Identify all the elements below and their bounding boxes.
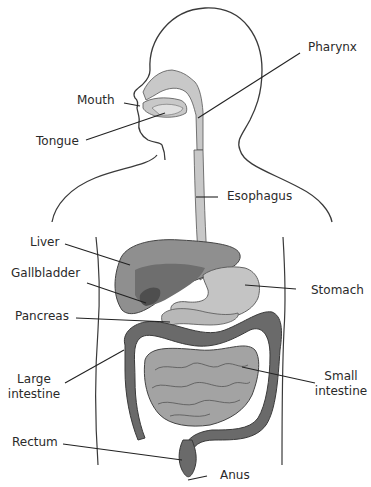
label-large-intestine-line2: intestine — [6, 387, 62, 402]
label-small-intestine-line2: intestine — [312, 384, 370, 399]
torso-right — [282, 237, 285, 465]
label-stomach: Stomach — [311, 283, 364, 298]
label-small-intestine: Small intestine — [312, 369, 370, 399]
torso-left — [96, 237, 100, 465]
label-esophagus: Esophagus — [227, 189, 292, 204]
label-pharynx: Pharynx — [308, 40, 357, 55]
label-large-intestine-line1: Large — [6, 372, 62, 387]
label-gallbladder: Gallbladder — [11, 266, 80, 281]
shoulder-left — [52, 155, 157, 222]
label-pancreas: Pancreas — [15, 309, 69, 324]
label-mouth: Mouth — [77, 93, 115, 108]
label-small-intestine-line1: Small — [312, 369, 370, 384]
rectum-shape — [179, 440, 196, 477]
small-intestine-shape — [144, 346, 258, 426]
label-liver: Liver — [30, 235, 59, 250]
label-tongue: Tongue — [36, 134, 79, 149]
label-rectum: Rectum — [12, 435, 58, 450]
label-large-intestine: Large intestine — [6, 372, 62, 402]
digestive-system-diagram: Pharynx Mouth Tongue Esophagus Liver Gal… — [0, 0, 371, 487]
label-anus: Anus — [220, 468, 250, 483]
